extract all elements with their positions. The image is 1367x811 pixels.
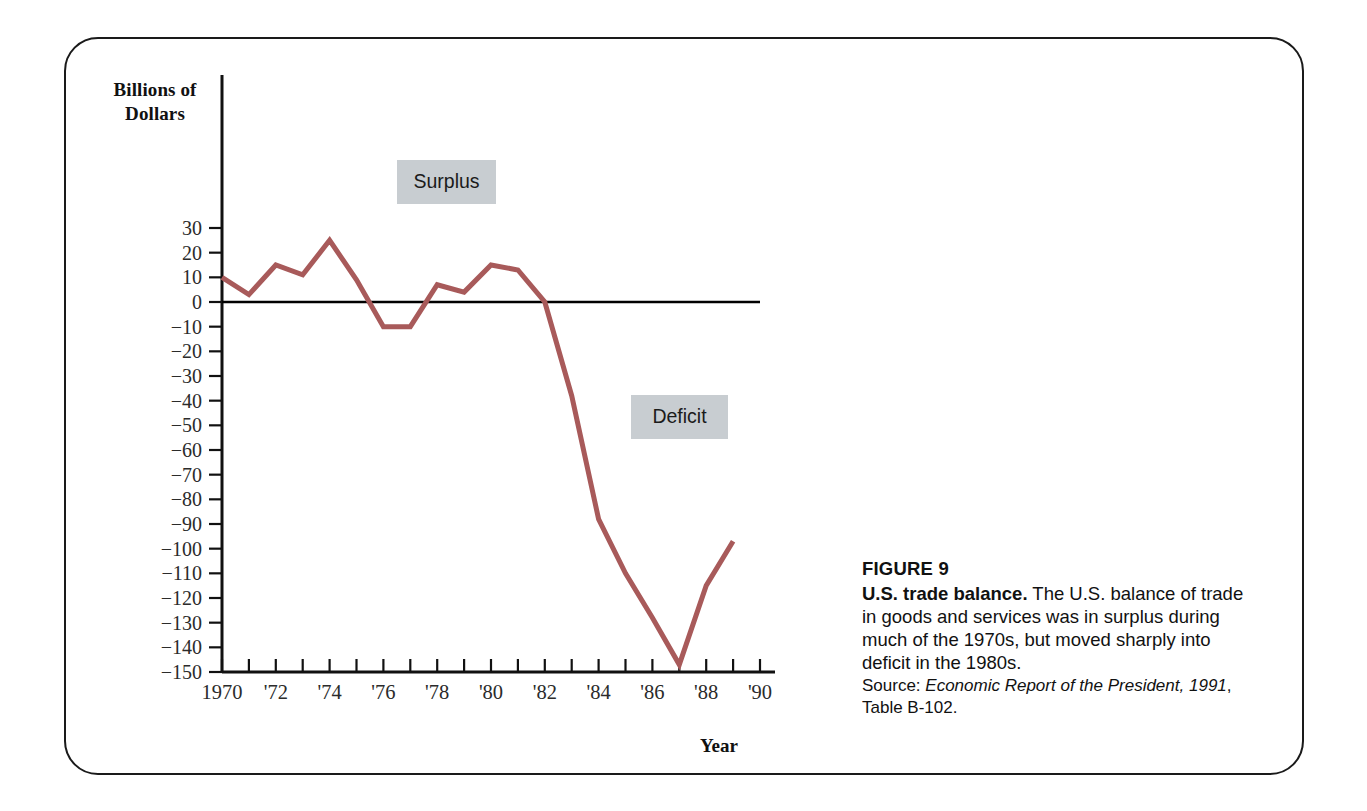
y-tick-label: −100 (161, 538, 202, 560)
figure-root: 3020100−10−20−30−40−50−60−70−80−90−100−1… (0, 0, 1367, 811)
y-axis-title-line2: Dollars (125, 103, 185, 124)
x-tick-label: '90 (748, 681, 772, 703)
x-tick-label: '72 (264, 681, 288, 703)
x-tick-label: '78 (425, 681, 449, 703)
caption-figure-number: FIGURE 9 (862, 558, 1247, 581)
y-tick-label: −20 (171, 340, 202, 362)
y-tick-label: −10 (171, 316, 202, 338)
y-tick-label: −110 (161, 562, 202, 584)
trade-balance-data-line (222, 240, 733, 664)
y-axis-title-line1: Billions of (114, 79, 197, 100)
y-tick-label: −50 (171, 414, 202, 436)
y-tick-label: −80 (171, 488, 202, 510)
y-tick-label: −70 (171, 464, 202, 486)
deficit-annotation-chip: Deficit (631, 395, 728, 439)
caption-lead-text: U.S. trade balance. (862, 583, 1028, 604)
x-axis-tick-labels: 1970'72'74'76'78'80'82'84'86'88'90 (202, 681, 773, 703)
y-tick-label: −150 (161, 661, 202, 683)
y-axis-tick-labels: 3020100−10−20−30−40−50−60−70−80−90−100−1… (161, 217, 202, 683)
y-tick-label: 30 (182, 217, 202, 239)
figure-caption: FIGURE 9 U.S. trade balance. The U.S. ba… (862, 558, 1247, 718)
x-tick-label: '80 (479, 681, 503, 703)
caption-body-text: U.S. trade balance. The U.S. balance of … (862, 582, 1247, 675)
x-axis-title: Year (700, 735, 738, 757)
x-tick-label: '86 (640, 681, 664, 703)
caption-source-prefix: Source: (862, 676, 925, 695)
caption-source-line: Source: Economic Report of the President… (862, 675, 1247, 718)
caption-source-title: Economic Report of the President, (925, 676, 1184, 695)
y-tick-label: 10 (182, 266, 202, 288)
y-axis-title: Billions of Dollars (96, 78, 214, 127)
x-tick-label: '74 (317, 681, 341, 703)
x-tick-label: '84 (586, 681, 610, 703)
x-tick-label: '76 (371, 681, 395, 703)
x-tick-label: 1970 (202, 681, 243, 703)
y-tick-label: 20 (182, 242, 202, 264)
y-tick-label: −60 (171, 439, 202, 461)
y-tick-label: −120 (161, 587, 202, 609)
x-tick-label: '82 (533, 681, 557, 703)
caption-source-year: 1991 (1189, 676, 1227, 695)
y-tick-label: −90 (171, 513, 202, 535)
y-axis-tick-marks (209, 228, 222, 672)
y-tick-label: 0 (192, 291, 202, 313)
y-tick-label: −30 (171, 365, 202, 387)
y-tick-label: −40 (171, 390, 202, 412)
surplus-annotation-chip: Surplus (397, 160, 496, 204)
y-tick-label: −140 (161, 636, 202, 658)
y-tick-label: −130 (161, 612, 202, 634)
x-tick-label: '88 (694, 681, 718, 703)
